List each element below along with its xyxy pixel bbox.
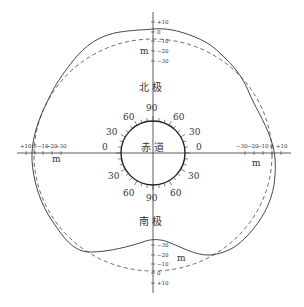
- top-scale-label: −30: [157, 58, 169, 64]
- top-scale: +10 0 −10 −20 −30: [151, 19, 169, 64]
- lat-label-60-lower-left: 60: [123, 188, 135, 198]
- left-scale-label: +10: [20, 143, 32, 149]
- geoid-diagram: 0 30 60 90 60 30 0 30 60 90 60 30 北 极 南 …: [0, 0, 304, 307]
- top-scale-label: −20: [157, 48, 169, 54]
- left-scale-label: −30: [55, 143, 67, 149]
- bottom-scale-label: −20: [157, 252, 169, 258]
- unit-label-left: m: [52, 154, 61, 164]
- north-pole-label: 北 极: [139, 81, 162, 93]
- lat-label-0-left: 0: [102, 142, 108, 152]
- lat-label-60-upper-right: 60: [173, 112, 185, 122]
- unit-label-bottom: m: [177, 253, 186, 263]
- lat-label-60-lower-right: 60: [170, 188, 182, 198]
- top-scale-label: 0: [157, 29, 161, 35]
- bottom-scale-label: +10: [157, 280, 169, 286]
- right-scale-label: 0: [270, 143, 274, 149]
- lat-label-90-bottom: 90: [146, 193, 158, 203]
- latitude-tick: [174, 178, 176, 181]
- south-pole-label: 南 极: [139, 215, 162, 227]
- latitude-tick: [121, 169, 125, 172]
- top-scale-label: +10: [157, 19, 169, 25]
- unit-label-right: m: [252, 158, 261, 168]
- bottom-scale: −30 −20 −10 0 +10: [151, 242, 169, 286]
- latitude-tick: [135, 181, 138, 185]
- latitude-tick: [130, 178, 132, 181]
- lat-label-30-lower-left: 30: [108, 171, 120, 181]
- right-scale-label: −10: [257, 143, 269, 149]
- lat-label-30-upper-left: 30: [106, 127, 118, 137]
- lat-label-30-lower-right: 30: [188, 171, 200, 181]
- bottom-scale-label: 0: [157, 270, 161, 276]
- latitude-tick: [169, 181, 172, 185]
- latitude-tick: [130, 126, 132, 129]
- equator-label: 赤 道: [141, 141, 164, 153]
- latitude-tick: [178, 130, 181, 132]
- lat-label-0-right: 0: [196, 142, 202, 152]
- lat-label-90-top: 90: [146, 103, 158, 113]
- unit-label-top: m: [140, 46, 149, 56]
- latitude-tick: [181, 169, 185, 172]
- bottom-scale-label: −30: [157, 242, 169, 248]
- latitude-tick: [178, 174, 181, 176]
- lat-label-60-upper-left: 60: [123, 112, 135, 122]
- latitude-tick: [126, 174, 129, 176]
- latitude-tick: [169, 121, 172, 125]
- right-scale-label: +10: [276, 143, 288, 149]
- latitude-tick: [126, 130, 129, 132]
- latitude-tick: [121, 135, 125, 138]
- latitude-tick: [135, 121, 138, 125]
- latitude-tick: [174, 126, 176, 129]
- bottom-scale-label: −10: [157, 261, 169, 267]
- top-scale-label: −10: [157, 38, 169, 44]
- lat-label-30-upper-right: 30: [189, 127, 201, 137]
- latitude-tick: [181, 135, 185, 138]
